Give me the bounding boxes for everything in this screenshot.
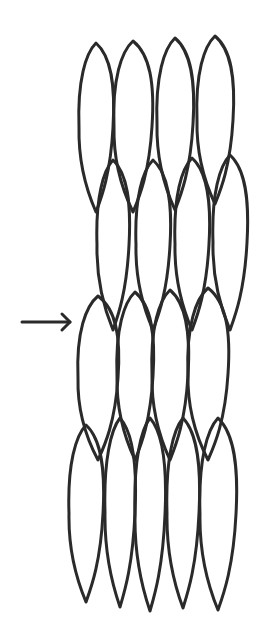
diagram-stage: Line drawing of spindle-shaped cells arr… — [0, 0, 269, 643]
spindle-cell — [200, 418, 237, 610]
spindle-cell — [197, 36, 234, 204]
spindle-cell — [157, 38, 194, 210]
spindle-cell — [135, 418, 166, 611]
spindle-cells-diagram — [0, 0, 269, 643]
arrow-icon — [22, 314, 70, 330]
spindle-cell — [136, 160, 171, 330]
spindle-cell — [117, 292, 154, 460]
spindle-cell — [213, 155, 248, 330]
spindle-cell — [105, 418, 136, 607]
tier-4 — [69, 418, 237, 611]
spindle-cell — [114, 41, 153, 212]
spindle-cell — [79, 43, 114, 212]
spindle-cell — [97, 160, 130, 330]
cell-tiers — [69, 36, 248, 611]
tier-2 — [97, 155, 248, 330]
tier-3 — [78, 288, 229, 460]
spindle-cell — [167, 418, 200, 608]
spindle-cell — [69, 425, 104, 602]
